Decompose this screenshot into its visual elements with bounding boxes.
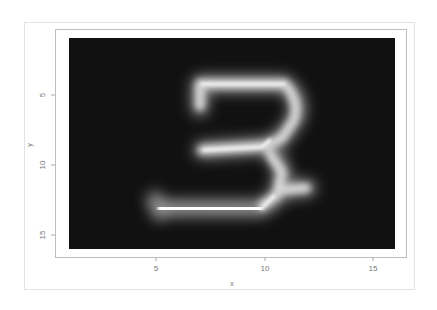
y-axis-label: y <box>26 143 34 147</box>
x-axis: 5 10 15 x <box>154 257 378 287</box>
y-tick-label: 10 <box>38 160 47 169</box>
y-axis: 5 10 15 y <box>26 92 55 239</box>
chart: 5 10 15 x 5 10 15 y <box>0 0 437 310</box>
x-tick-label: 15 <box>369 264 378 273</box>
x-tick-label: 10 <box>261 264 270 273</box>
x-tick-label: 5 <box>154 264 159 273</box>
y-tick-label: 5 <box>38 92 47 97</box>
x-axis-label: x <box>230 280 234 287</box>
y-tick-label: 15 <box>38 230 47 239</box>
